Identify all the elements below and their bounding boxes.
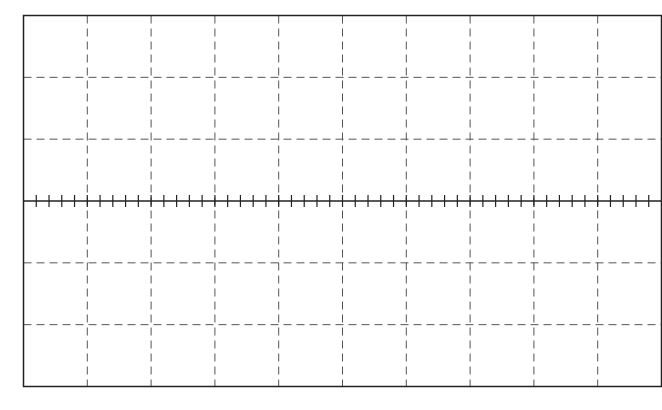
center-axis-with-ticks	[24, 195, 662, 207]
oscilloscope-graticule	[0, 0, 662, 410]
